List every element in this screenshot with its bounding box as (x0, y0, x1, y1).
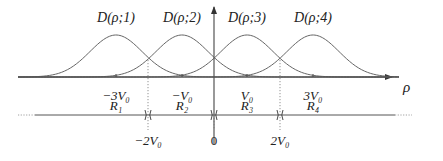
gaussian-curve-4 (18, 35, 399, 77)
curve-label-2: D(ρ;2) (162, 10, 201, 26)
curve-label-1: D(ρ;1) (96, 10, 135, 26)
distribution-diagram: D(ρ;1)D(ρ;2)D(ρ;3)D(ρ;4) −3V₀−V₀V₀3V₀ R₁… (0, 0, 443, 161)
gaussian-curve-3 (18, 35, 399, 77)
region-label-4: R₄ (306, 98, 320, 113)
region-label-3: R₃ (240, 98, 253, 113)
gaussian-curves (18, 35, 399, 77)
boundary-label-1: −2V₀ (134, 133, 162, 148)
tick-labels: −3V₀−V₀V₀3V₀ (102, 88, 322, 103)
curve-label-3: D(ρ;3) (227, 10, 266, 26)
gaussian-curve-2 (18, 35, 399, 77)
region-label-1: R₁ (109, 98, 122, 113)
boundary-label-2: 0 (211, 133, 218, 148)
curve-label-4: D(ρ;4) (293, 10, 332, 26)
boundary-labels: −2V₀02V₀ (134, 133, 289, 148)
gaussian-curve-1 (18, 35, 399, 77)
region-label-2: R₂ (175, 98, 189, 113)
rho-axis-label: ρ (402, 79, 410, 95)
boundary-label-3: 2V₀ (271, 133, 290, 148)
